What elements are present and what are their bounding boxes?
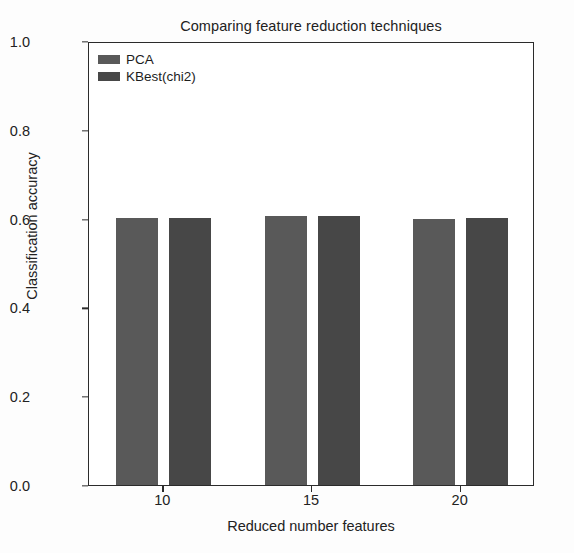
bar <box>318 216 360 485</box>
plot-area <box>88 42 534 486</box>
x-tick-label: 10 <box>132 492 192 508</box>
x-tick-label: 15 <box>281 492 341 508</box>
x-tick-mark <box>162 486 163 492</box>
legend-swatch-icon <box>98 72 120 81</box>
bar <box>116 218 158 485</box>
chart-legend: PCAKBest(chi2) <box>94 48 201 89</box>
y-tick-label: 0.4 <box>0 300 30 316</box>
y-tick-label: 0.8 <box>0 123 30 139</box>
bar <box>169 218 211 485</box>
x-tick-mark <box>460 486 461 492</box>
bar <box>466 218 508 485</box>
y-tick-label: 0.0 <box>0 478 30 494</box>
y-tick-label: 0.6 <box>0 212 30 228</box>
y-tick-label: 0.2 <box>0 389 30 405</box>
y-tick-label: 1.0 <box>0 34 30 50</box>
legend-swatch-icon <box>98 55 120 64</box>
legend-label: PCA <box>126 53 154 67</box>
legend-item: PCA <box>98 51 196 68</box>
bar <box>413 219 455 485</box>
chart-title: Comparing feature reduction techniques <box>88 18 534 34</box>
chart-figure: Comparing feature reduction techniques C… <box>0 0 574 553</box>
legend-item: KBest(chi2) <box>98 68 196 85</box>
x-tick-label: 20 <box>430 492 490 508</box>
x-axis-label: Reduced number features <box>88 518 534 534</box>
bar <box>265 216 307 485</box>
x-tick-mark <box>311 486 312 492</box>
legend-label: KBest(chi2) <box>126 70 196 84</box>
